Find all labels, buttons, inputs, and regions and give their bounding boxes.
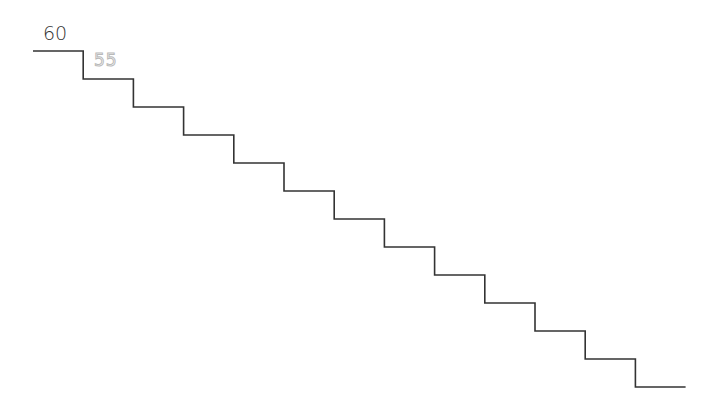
next-value-dotted-label: 55 — [94, 50, 118, 70]
current-value-label: 60 — [43, 22, 67, 44]
staircase-canvas: 60 55 — [0, 0, 722, 395]
